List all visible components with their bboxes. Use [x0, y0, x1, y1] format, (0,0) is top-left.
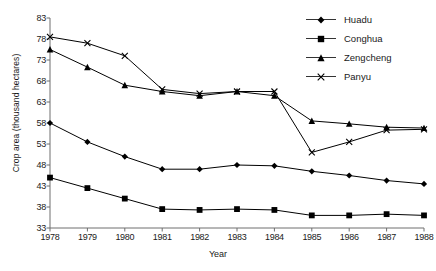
legend-item-zengcheng[interactable]: Zengcheng	[306, 48, 432, 67]
square-icon	[306, 33, 336, 45]
data-point-diamond	[159, 166, 165, 172]
legend-label: Panyu	[336, 71, 371, 82]
data-point-square	[318, 35, 324, 41]
data-point-cross	[122, 53, 128, 59]
series-line	[50, 123, 424, 184]
series-conghua	[47, 175, 427, 219]
data-point-triangle	[47, 46, 54, 52]
data-point-triangle	[84, 64, 91, 70]
data-point-diamond	[47, 120, 53, 126]
legend-label: Conghua	[336, 33, 383, 44]
triangle-icon	[306, 52, 336, 64]
diamond-icon	[306, 14, 336, 26]
data-point-cross	[309, 149, 315, 155]
data-point-square	[346, 213, 352, 219]
data-point-diamond	[197, 166, 203, 172]
data-point-square	[384, 211, 390, 217]
series-huadu	[47, 120, 427, 187]
data-point-square	[309, 213, 315, 219]
data-point-diamond	[84, 139, 90, 145]
data-point-square	[421, 213, 427, 219]
data-point-triangle	[122, 82, 129, 88]
data-point-cross	[346, 139, 352, 145]
data-point-diamond	[271, 163, 277, 169]
data-point-cross	[318, 73, 325, 80]
legend-item-panyu[interactable]: Panyu	[306, 67, 432, 86]
legend-label: Huadu	[336, 14, 372, 25]
legend-item-huadu[interactable]: Huadu	[306, 10, 432, 29]
data-point-square	[197, 207, 203, 213]
chart-legend: HuaduConghuaZengchengPanyu	[306, 10, 432, 86]
line-chart: Crop area (thousand hectares) Year 33384…	[0, 0, 436, 271]
data-point-diamond	[309, 168, 315, 174]
data-point-diamond	[384, 177, 390, 183]
data-point-square	[159, 206, 165, 212]
data-point-diamond	[318, 16, 325, 23]
data-point-square	[234, 206, 240, 212]
data-point-square	[272, 207, 278, 213]
data-point-square	[47, 175, 53, 181]
legend-label: Zengcheng	[336, 52, 392, 63]
data-point-triangle	[317, 54, 324, 61]
data-point-diamond	[234, 162, 240, 168]
data-point-diamond	[346, 172, 352, 178]
data-point-diamond	[122, 154, 128, 160]
legend-item-conghua[interactable]: Conghua	[306, 29, 432, 48]
data-point-square	[85, 185, 91, 191]
cross-icon	[306, 71, 336, 83]
data-point-diamond	[421, 181, 427, 187]
data-point-square	[122, 196, 128, 202]
